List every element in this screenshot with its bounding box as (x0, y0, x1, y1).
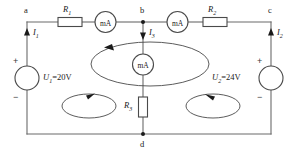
junction-dot-d (141, 132, 145, 136)
current-arrow-i1 (24, 28, 30, 36)
resistor-r2-body (203, 18, 227, 27)
resistor-label-r3: R3 (124, 101, 132, 112)
meter-left-label: mA (96, 19, 116, 28)
resistor-label-r1-sub: 1 (68, 10, 71, 16)
resistor-label-r3-sub: 3 (129, 106, 132, 112)
mesh-loop-right-arrowhead (205, 94, 215, 100)
resistor-label-r2-sub: 2 (213, 10, 216, 16)
resistor-label-r2: R2 (208, 5, 216, 16)
source-label-u2-value: =24V (221, 72, 240, 82)
current-label-i1: I1 (33, 28, 39, 39)
current-arrow-i2 (268, 28, 274, 36)
current-label-i2: I2 (277, 28, 283, 39)
source-label-u1: U1=20V (43, 73, 72, 84)
current-label-i1-sub: 1 (36, 33, 39, 39)
voltage-source-u1-symbol (15, 66, 39, 90)
current-label-i3-sub: 3 (152, 33, 155, 39)
meter-middle-label: mA (133, 61, 153, 70)
node-label-c: c (268, 6, 272, 15)
source-label-u1-value: =20V (52, 72, 71, 82)
polarity-minus-u2: − (257, 93, 262, 102)
node-label-a: a (24, 6, 28, 15)
polarity-plus-u1: + (13, 57, 18, 66)
polarity-minus-u1: − (13, 93, 18, 102)
junction-dot-b (141, 20, 145, 24)
resistor-r1-body (58, 18, 82, 27)
node-label-d: d (140, 140, 144, 149)
polarity-plus-u2: + (257, 57, 262, 66)
source-label-u2: U2=24V (212, 73, 241, 84)
mesh-loop-left-arrowhead (86, 94, 95, 100)
resistor-label-r1: R1 (63, 5, 71, 16)
current-arrow-i3 (140, 33, 146, 41)
current-label-i3: I3 (149, 28, 155, 39)
circuit-diagram: a b c d R1 R2 R3 U1=20V U2=24V + − + − I… (0, 0, 298, 155)
current-label-i2-sub: 2 (280, 33, 283, 39)
resistor-r3-body (139, 97, 148, 117)
meter-right-label: mA (168, 19, 188, 28)
node-label-b: b (140, 6, 144, 15)
voltage-source-u2-symbol (259, 66, 283, 90)
